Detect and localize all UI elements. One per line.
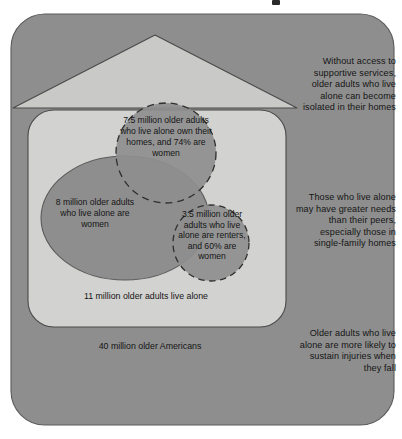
annotation-isolation: Without access to supportive services, o… <box>292 56 396 114</box>
annotation-fall-injuries: Older adults who live alone are more lik… <box>292 328 396 374</box>
infographic-canvas: 7.5 million older adults who live alone … <box>0 0 402 439</box>
annotation-greater-needs: Those who live alone may have greater ne… <box>292 192 396 250</box>
set-live-alone-label: 11 million older adults live alone <box>30 291 262 302</box>
set-women-label: 8 million older adults who live alone ar… <box>48 197 142 230</box>
set-renters-label: 3.5 million older adults who live alone … <box>176 209 248 262</box>
set-older-americans-label: 40 million older Americans <box>30 341 270 352</box>
set-homeowners-label: 7.5 million older adults who live alone … <box>118 115 214 159</box>
